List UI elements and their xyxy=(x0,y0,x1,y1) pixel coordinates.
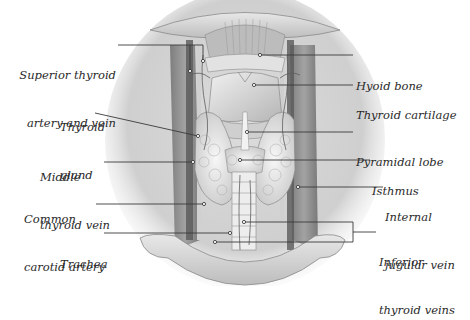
isthmus-shape xyxy=(225,146,265,175)
label-inferior-thyroid-veins-line2: thyroid veins xyxy=(379,302,455,318)
label-superior-thyroid-line1: Superior thyroid xyxy=(0,67,116,83)
hyoid-bone-shape xyxy=(205,54,285,72)
label-inferior-thyroid-veins-line1: Inferior xyxy=(379,254,455,270)
label-inferior-thyroid-veins: Inferior thyroid veins xyxy=(379,222,455,320)
label-thyroid-gland-line1: Thyroid xyxy=(60,119,105,135)
label-thyroid-cartilage-line1: Thyroid cartilage xyxy=(356,107,457,123)
label-trachea: Trachea xyxy=(60,224,108,304)
trachea-rings xyxy=(232,172,256,250)
label-trachea-line1: Trachea xyxy=(60,256,108,272)
